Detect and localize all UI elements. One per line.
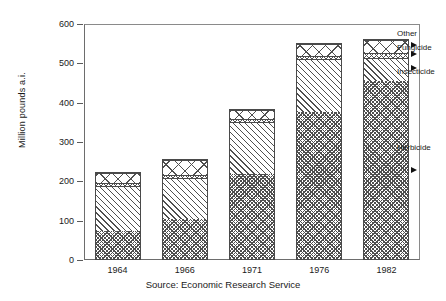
y-axis-tick-label: 500 — [14, 58, 74, 68]
chart-container: Million pounds a.i. 0100200300400500600 … — [0, 0, 446, 301]
bar-segment-herbicide — [96, 231, 140, 259]
annotation-label-other: Other — [397, 29, 417, 38]
annotation-arrow-herbicide — [411, 167, 417, 173]
bar-segment-herbicide — [230, 174, 274, 259]
source-caption: Source: Economic Research Service — [0, 279, 446, 290]
bar-segment-insecticide — [96, 186, 140, 231]
x-axis-tick-label: 1976 — [309, 265, 329, 275]
x-axis-tick-label: 1982 — [376, 265, 396, 275]
bar-segment-insecticide — [230, 122, 274, 174]
bar-segment-other — [297, 44, 341, 56]
y-axis-tick-mark — [77, 142, 83, 143]
annotation-label-fungicide: Fungicide — [397, 43, 432, 52]
y-axis-tick-mark — [77, 24, 83, 25]
y-axis-tick-label: 600 — [14, 19, 74, 29]
x-axis-tick-label: 1964 — [108, 265, 128, 275]
bar-1976 — [296, 43, 342, 260]
annotation-arrow-fungicide — [411, 51, 417, 57]
y-axis-tick-mark — [77, 103, 83, 104]
y-axis-tick-label: 400 — [14, 98, 74, 108]
bar-segment-insecticide — [163, 178, 207, 220]
y-axis-tick-mark — [77, 221, 83, 222]
y-axis-tick-label: 200 — [14, 176, 74, 186]
y-axis-tick-mark — [77, 260, 83, 261]
annotation-label-insecticide: Insecticide — [397, 67, 435, 76]
bar-segment-other — [163, 160, 207, 174]
annotation-label-herbicide: Herbicide — [397, 143, 431, 152]
bar-segment-other — [230, 110, 274, 119]
bar-segment-herbicide — [297, 112, 341, 259]
bar-1966 — [162, 159, 208, 260]
y-axis-tick-mark — [77, 63, 83, 64]
y-axis-tick-mark — [77, 181, 83, 182]
bar-segment-herbicide — [163, 219, 207, 259]
y-axis-tick-label: 300 — [14, 137, 74, 147]
bar-segment-insecticide — [297, 59, 341, 112]
bar-segment-herbicide — [364, 81, 408, 259]
x-axis-tick-label: 1971 — [242, 265, 262, 275]
bar-segment-other — [96, 173, 140, 183]
bar-1964 — [95, 172, 141, 261]
y-axis-tick-label: 100 — [14, 216, 74, 226]
x-axis-tick-label: 1966 — [175, 265, 195, 275]
bar-1971 — [229, 109, 275, 260]
y-axis-tick-label: 0 — [14, 255, 74, 265]
